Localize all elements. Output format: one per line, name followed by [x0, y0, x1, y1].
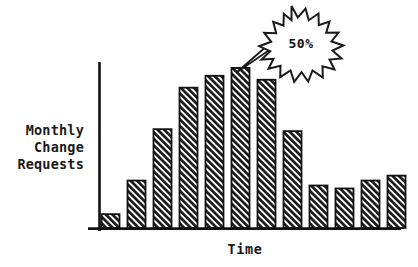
y-axis-label-line-3: Requests — [17, 156, 84, 172]
y-axis-label-line-2: Change — [34, 139, 84, 155]
bar — [128, 181, 146, 228]
bar — [362, 181, 380, 228]
x-axis-label: Time — [228, 241, 263, 257]
chart-canvas: 50% Monthly Change Requests Time — [0, 0, 418, 267]
bar — [284, 131, 302, 228]
bar — [102, 214, 120, 228]
bar — [388, 176, 406, 228]
bar — [206, 76, 224, 228]
bar-chart-figure: 50% Monthly Change Requests Time — [0, 0, 418, 267]
bar — [336, 188, 354, 228]
bar — [258, 80, 276, 228]
bar — [310, 186, 328, 228]
bar — [180, 88, 198, 228]
callout-value-label: 50% — [289, 36, 314, 51]
bar — [154, 129, 172, 228]
y-axis-label-line-1: Monthly — [26, 122, 84, 138]
bar — [232, 68, 250, 228]
